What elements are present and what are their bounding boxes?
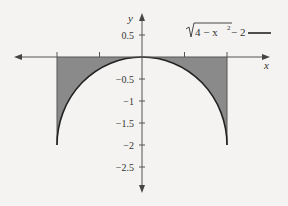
x-axis-label: x (263, 59, 269, 71)
legend-tail: − 2 (231, 26, 245, 38)
y-tick-label: −1 (123, 96, 134, 107)
legend-radicand: 4 − x (195, 26, 218, 38)
chart-canvas: 0.5 −0.5 −1 −1.5 −2 −2.5 y x 4 − x 2 − 2 (0, 0, 288, 206)
y-axis-label: y (127, 12, 133, 24)
y-tick-label: −1.5 (116, 118, 134, 129)
y-axis-up-arrow-icon (139, 13, 145, 21)
y-tick-label: −2 (123, 140, 134, 151)
y-tick-label: −2.5 (116, 162, 134, 173)
legend: 4 − x 2 − 2 (186, 23, 271, 38)
y-tick-label: −0.5 (116, 74, 134, 85)
x-axis-left-arrow-icon (14, 54, 22, 60)
y-tick-label: 0.5 (122, 30, 135, 41)
